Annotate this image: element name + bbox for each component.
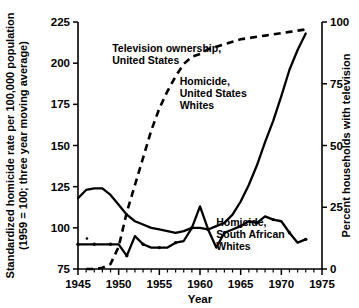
- y-tick-label-left: 200: [51, 57, 70, 69]
- series-marker-south-africa: [109, 243, 112, 246]
- chart-container: 7510012515017520022502550751001945195019…: [0, 0, 359, 308]
- stray-data-dot: [86, 237, 89, 240]
- annotation-tv: Television ownership,United States: [112, 42, 221, 66]
- y-tick-label-left: 225: [51, 16, 71, 28]
- annotation-line: South African: [216, 228, 284, 240]
- annotation-line: Whites: [180, 99, 215, 111]
- x-tick-label: 1960: [187, 278, 213, 290]
- series-marker-south-africa: [93, 243, 96, 246]
- annotation-line: Whites: [216, 240, 251, 252]
- series-marker-south-africa: [304, 238, 307, 241]
- series-marker-south-africa: [141, 243, 144, 246]
- annotation-line: Television ownership,: [112, 42, 221, 54]
- series-marker-south-africa: [174, 241, 177, 244]
- annotation-us: Homicide,United StatesWhites: [180, 75, 247, 111]
- series-marker-south-africa: [272, 218, 275, 221]
- series-marker-south-africa: [125, 254, 128, 257]
- x-tick-label: 1975: [309, 278, 335, 290]
- series-marker-south-africa: [288, 231, 291, 234]
- x-tick-label: 1955: [147, 278, 173, 290]
- series-marker-south-africa: [158, 246, 161, 249]
- x-tick-label: 1945: [65, 278, 91, 290]
- y-axis-title-left: Standardized homicide rate per 100,000 p…: [4, 12, 16, 278]
- y-axis-title-left-sub: (1959 = 100; three year moving average): [17, 41, 29, 250]
- series-marker-south-africa: [76, 243, 79, 246]
- x-tick-label: 1965: [228, 278, 254, 290]
- x-axis-title: Year: [188, 293, 213, 305]
- homicide-television-line-chart: 7510012515017520022502550751001945195019…: [0, 0, 359, 308]
- y-tick-label-right: 100: [330, 16, 349, 28]
- y-tick-label-right: 0: [330, 263, 336, 275]
- y-axis-title-right: Percent households with television: [340, 53, 352, 237]
- series-marker-south-africa: [190, 226, 193, 229]
- annotation-line: Homicide,: [216, 216, 266, 228]
- y-tick-label-left: 100: [51, 222, 70, 234]
- series-marker-south-africa: [206, 228, 209, 231]
- y-tick-label-left: 75: [57, 263, 70, 275]
- annotation-line: United States: [112, 54, 179, 66]
- annotation-line: Homicide,: [180, 75, 230, 87]
- x-tick-label: 1970: [269, 278, 295, 290]
- y-tick-label-left: 175: [51, 98, 71, 110]
- y-tick-label-left: 150: [51, 140, 70, 152]
- y-tick-label-left: 125: [51, 181, 71, 193]
- annotation-sa: Homicide,South AfricanWhites: [216, 216, 284, 252]
- annotation-line: United States: [180, 87, 247, 99]
- x-tick-label: 1950: [106, 278, 132, 290]
